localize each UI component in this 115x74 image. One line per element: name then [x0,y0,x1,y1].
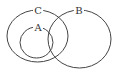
venn-diagram: CBA [0,0,115,74]
set-b-circle [48,10,111,68]
set-c-label: C [34,5,42,16]
set-b-label: B [75,5,82,16]
set-c-circle [7,10,68,62]
set-a-label: A [33,22,42,33]
